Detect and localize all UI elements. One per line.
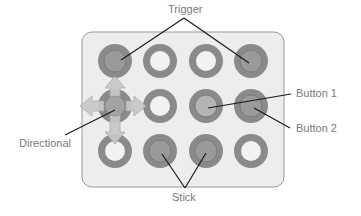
controller-layout-diagram [0, 0, 361, 216]
directional-label: Directional [19, 137, 71, 149]
stick-right [189, 134, 223, 168]
trigger-button-left [98, 44, 132, 78]
stick-left [143, 134, 177, 168]
empty-socket [234, 134, 268, 168]
trigger-button-right [234, 44, 268, 78]
button-2 [234, 89, 268, 123]
button2-label: Button 2 [296, 122, 337, 134]
stick-label: Stick [172, 191, 196, 203]
empty-socket [143, 89, 177, 123]
empty-socket [143, 44, 177, 78]
trigger-label: Trigger [168, 3, 202, 15]
empty-socket [189, 44, 223, 78]
button1-label: Button 1 [296, 87, 337, 99]
